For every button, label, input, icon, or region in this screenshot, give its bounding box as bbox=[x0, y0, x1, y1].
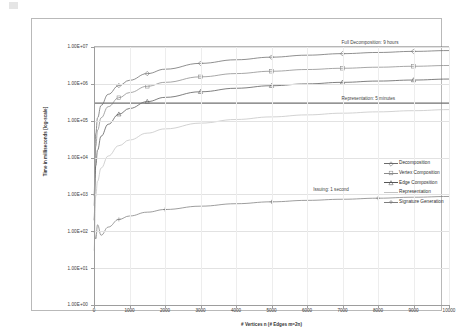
vertical-gridline bbox=[130, 47, 131, 305]
x-tick-label: 2000 bbox=[160, 308, 170, 313]
x-tick-mark bbox=[343, 305, 344, 308]
vertical-gridline bbox=[307, 47, 308, 305]
x-tick-label: 1000 bbox=[124, 308, 134, 313]
vertical-gridline bbox=[343, 47, 344, 305]
y-axis-title: Time in milliseconds [log-scale] bbox=[43, 77, 48, 207]
chart-legend: DecompositionVertex CompositionEdge Comp… bbox=[384, 159, 462, 207]
x-tick-label: 10000 bbox=[443, 308, 456, 313]
x-tick-label: 6000 bbox=[302, 308, 312, 313]
x-tick-label: 4000 bbox=[231, 308, 241, 313]
reference-line-label: Representation: 5 minutes bbox=[342, 96, 396, 101]
x-tick-mark bbox=[236, 305, 237, 308]
legend-swatch-icon bbox=[384, 160, 398, 168]
y-tick-label: 1.00E+07 bbox=[42, 44, 88, 49]
vertical-gridline bbox=[201, 47, 202, 305]
x-tick-mark bbox=[94, 305, 95, 308]
x-tick-mark bbox=[201, 305, 202, 308]
scan-artifact bbox=[9, 2, 18, 9]
x-tick-mark bbox=[165, 305, 166, 308]
x-tick-label: 7000 bbox=[337, 308, 347, 313]
x-tick-mark bbox=[378, 305, 379, 308]
y-tick-mark bbox=[91, 158, 94, 159]
x-tick-label: 5000 bbox=[266, 308, 276, 313]
vertical-gridline bbox=[272, 47, 273, 305]
reference-line-label: Issuing: 1 second bbox=[313, 187, 349, 192]
legend-item-decomposition[interactable]: Decomposition bbox=[384, 159, 462, 169]
x-tick-mark bbox=[307, 305, 308, 308]
legend-swatch-icon bbox=[384, 179, 398, 187]
x-tick-label: 8000 bbox=[373, 308, 383, 313]
legend-item-signature-generation[interactable]: Signature Generation bbox=[384, 197, 462, 207]
vertical-gridline bbox=[165, 47, 166, 305]
y-tick-label: 1.00E+04 bbox=[42, 155, 88, 160]
y-axis-line bbox=[94, 47, 95, 305]
y-tick-mark bbox=[91, 194, 94, 195]
x-tick-label: 9000 bbox=[408, 308, 418, 313]
x-axis-title: # Vertices n (# Edges m=2n) bbox=[94, 322, 449, 327]
y-tick-label: 1.00E+00 bbox=[42, 302, 88, 307]
x-tick-mark bbox=[414, 305, 415, 308]
x-tick-mark bbox=[130, 305, 131, 308]
legend-label: Vertex Composition bbox=[398, 171, 440, 176]
y-tick-label: 1.00E+01 bbox=[42, 266, 88, 271]
data-point-marker bbox=[117, 217, 121, 221]
legend-label: Decomposition bbox=[398, 161, 430, 166]
y-tick-label: 1.00E+06 bbox=[42, 81, 88, 86]
legend-label: Representation bbox=[398, 190, 431, 195]
data-point-marker bbox=[389, 181, 393, 185]
legend-swatch-icon bbox=[384, 169, 398, 177]
data-point-marker bbox=[389, 200, 393, 204]
vertical-gridline bbox=[236, 47, 237, 305]
x-tick-mark bbox=[449, 305, 450, 308]
y-tick-mark bbox=[91, 121, 94, 122]
y-tick-mark bbox=[91, 231, 94, 232]
y-tick-label: 1.00E+05 bbox=[42, 118, 88, 123]
data-point-marker bbox=[389, 162, 393, 166]
chart-screenshot: 1.00E+001.00E+011.00E+021.00E+031.00E+04… bbox=[0, 0, 462, 335]
x-tick-label: 3000 bbox=[195, 308, 205, 313]
x-tick-label: 0 bbox=[93, 308, 96, 313]
vertical-gridline bbox=[378, 47, 379, 305]
legend-item-vertex-composition[interactable]: Vertex Composition bbox=[384, 169, 462, 179]
chart-frame: 1.00E+001.00E+011.00E+021.00E+031.00E+04… bbox=[31, 18, 442, 311]
legend-swatch-icon bbox=[384, 189, 398, 197]
y-tick-mark bbox=[91, 84, 94, 85]
legend-item-representation[interactable]: Representation bbox=[384, 188, 462, 198]
legend-label: Signature Generation bbox=[398, 200, 444, 205]
legend-swatch-icon bbox=[384, 198, 398, 206]
y-tick-mark bbox=[91, 47, 94, 48]
legend-item-edge-composition[interactable]: Edge Composition bbox=[384, 178, 462, 188]
data-point-marker bbox=[389, 172, 393, 176]
x-tick-mark bbox=[272, 305, 273, 308]
y-tick-mark bbox=[91, 268, 94, 269]
y-tick-label: 1.00E+02 bbox=[42, 229, 88, 234]
y-tick-label: 1.00E+03 bbox=[42, 192, 88, 197]
reference-line-label: Full Decomposition: 9 hours bbox=[342, 40, 399, 45]
legend-label: Edge Composition bbox=[398, 181, 437, 186]
